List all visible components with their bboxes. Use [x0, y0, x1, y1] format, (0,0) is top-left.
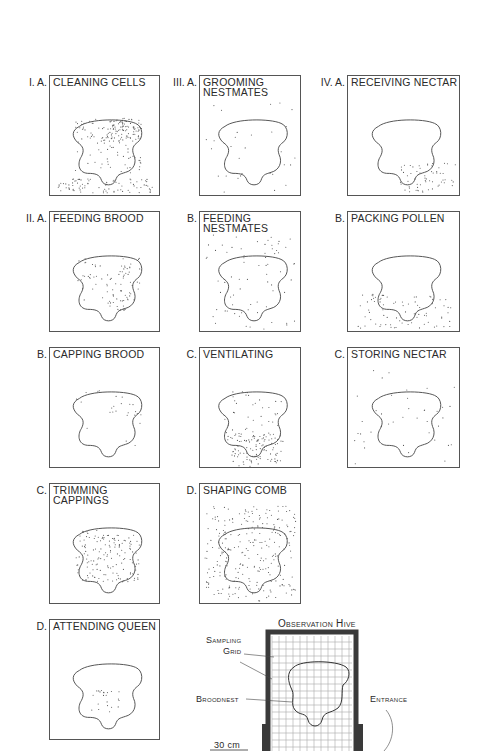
behavior-panel: FEEDING NESTMATES [199, 211, 301, 332]
panel-group-label: B. [4, 349, 47, 359]
nest-map [50, 620, 161, 741]
nest-map [50, 212, 161, 333]
behavior-panel: CLEANING CELLS [49, 75, 160, 196]
nest-map [348, 348, 461, 469]
panel-group-label: C. [302, 349, 345, 359]
behavior-panel: FEEDING BROOD [49, 211, 160, 332]
behavior-panel: PACKING POLLEN [347, 211, 460, 332]
panel-group-label: IV. A. [302, 77, 345, 87]
panel-group-label: II. A. [4, 213, 47, 223]
behavior-panel: CAPPING BROOD [49, 347, 160, 468]
behavior-panel: TRIMMING CAPPINGS [49, 483, 160, 604]
behavior-panel: STORING NECTAR [347, 347, 460, 468]
behavior-panel: GROOMING NESTMATES [199, 75, 301, 196]
behavior-panel: SHAPING COMB [199, 483, 301, 604]
hive-drawing [196, 612, 479, 751]
panel-group-label: B. [302, 213, 345, 223]
panel-group-label: I. A. [4, 77, 47, 87]
nest-map [200, 212, 302, 333]
behavior-panel: ATTENDING QUEEN [49, 619, 160, 740]
panel-group-label: D. [154, 485, 197, 495]
observation-hive-diagram: Observation Hive Sampling Grid Broodnest… [196, 612, 479, 751]
panel-group-label: III. A. [154, 77, 197, 87]
behavior-panel: VENTILATING [199, 347, 301, 468]
panel-group-label: D. [4, 621, 47, 631]
panel-group-label: B. [154, 213, 197, 223]
panel-group-label: C. [154, 349, 197, 359]
nest-map [200, 484, 302, 605]
nest-map [50, 484, 161, 605]
behavior-panel: RECEIVING NECTAR [347, 75, 460, 196]
nest-map [348, 76, 461, 197]
nest-map [50, 76, 161, 197]
panel-group-label: C. [4, 485, 47, 495]
nest-map [50, 348, 161, 469]
nest-map [348, 212, 461, 333]
nest-map [200, 348, 302, 469]
nest-map [200, 76, 302, 197]
